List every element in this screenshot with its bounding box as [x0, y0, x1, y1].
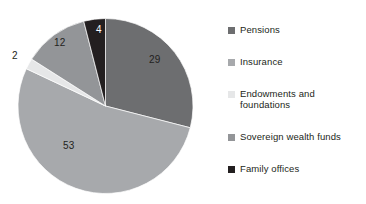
legend-item-family-offices[interactable]: Family offices	[228, 163, 299, 174]
legend-label-sovereign-wealth-funds: Sovereign wealth funds	[240, 131, 341, 142]
pie-slice-group	[18, 19, 193, 194]
legend-label-insurance: Insurance	[240, 56, 283, 67]
legend-item-endowments-and-foundations[interactable]: Endowments and foundations	[228, 88, 315, 110]
legend-swatch-family-offices	[228, 166, 235, 173]
pie-data-label: 53	[63, 141, 75, 151]
pie-data-label: 2	[12, 51, 18, 61]
pie-chart: 29532124 Pensions Insurance Endowments a…	[0, 0, 366, 204]
pie-data-label: 4	[96, 25, 102, 35]
legend-swatch-endowments-and-foundations	[228, 91, 235, 98]
legend-swatch-sovereign-wealth-funds	[228, 134, 235, 141]
pie-plot-area: 29532124	[0, 0, 214, 204]
legend-swatch-pensions	[228, 27, 235, 34]
pie-data-label: 12	[54, 38, 66, 48]
legend-item-sovereign-wealth-funds[interactable]: Sovereign wealth funds	[228, 131, 341, 142]
legend-item-insurance[interactable]: Insurance	[228, 56, 283, 67]
pie-data-label: 29	[149, 55, 161, 65]
legend-label-family-offices: Family offices	[240, 163, 299, 174]
legend-label-endowments-and-foundations: Endowments and foundations	[240, 88, 315, 110]
legend-item-pensions[interactable]: Pensions	[228, 24, 280, 35]
legend-label-pensions: Pensions	[240, 24, 280, 35]
legend-swatch-insurance	[228, 59, 235, 66]
pie-svg	[0, 0, 214, 204]
